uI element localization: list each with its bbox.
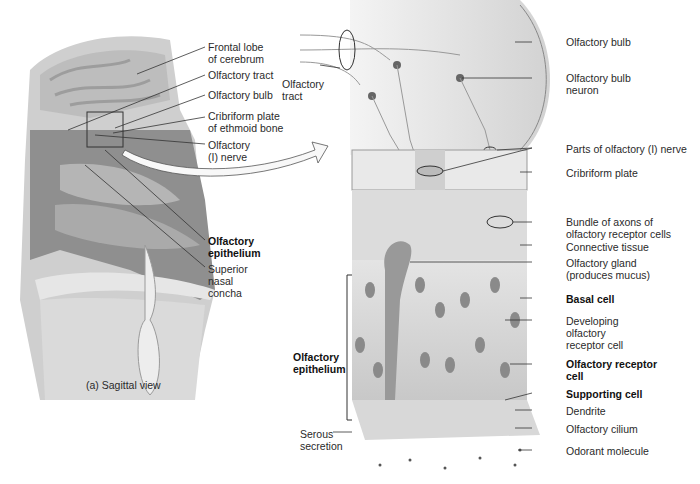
label-olfactory-receptor-cell: Olfactory receptor cell xyxy=(566,358,657,382)
caption-sagittal-view: (a) Sagittal view xyxy=(86,379,161,391)
label-parts-of-nerve: Parts of olfactory (I) nerve xyxy=(566,143,687,155)
label-supporting-cell: Supporting cell xyxy=(566,388,642,400)
label-olfactory-gland: Olfactory gland (produces mucus) xyxy=(566,257,650,281)
label-developing-receptor: Developing olfactory receptor cell xyxy=(566,315,623,351)
label-cribriform-plate: Cribriform plate of ethmoid bone xyxy=(208,110,283,134)
epithelium-drawing xyxy=(352,241,540,469)
label-olfactory-tract-b: Olfactory tract xyxy=(282,78,324,102)
label-superior-nasal-concha: Superior nasal concha xyxy=(208,263,248,299)
label-olfactory-tract: Olfactory tract xyxy=(208,69,273,81)
label-cribriform-plate-b: Cribriform plate xyxy=(566,167,638,179)
label-olfactory-epithelium-b: Olfactory epithelium xyxy=(293,351,346,375)
epithelium-bracket xyxy=(347,275,352,420)
label-olfactory-nerve: Olfactory (I) nerve xyxy=(208,139,250,163)
label-olfactory-bulb: Olfactory bulb xyxy=(208,89,273,101)
label-olfactory-epithelium: Olfactory epithelium xyxy=(208,235,261,259)
label-serous-secretion: Serous secretion xyxy=(300,428,343,452)
cribriform-plate-drawing xyxy=(352,150,527,260)
label-frontal-lobe: Frontal lobe of cerebrum xyxy=(208,41,264,65)
sagittal-head-drawing xyxy=(20,36,215,400)
label-olfactory-bulb-neuron: Olfactory bulb neuron xyxy=(566,72,631,96)
label-odorant-molecule: Odorant molecule xyxy=(566,445,649,457)
label-connective-tissue: Connective tissue xyxy=(566,241,649,253)
label-olfactory-bulb-b: Olfactory bulb xyxy=(566,36,631,48)
label-bundle-axons: Bundle of axons of olfactory receptor ce… xyxy=(566,216,671,240)
label-olfactory-cilium: Olfactory cilium xyxy=(566,423,638,435)
label-dendrite: Dendrite xyxy=(566,405,606,417)
olfactory-bulb-drawing xyxy=(300,0,550,170)
label-basal-cell: Basal cell xyxy=(566,293,614,305)
